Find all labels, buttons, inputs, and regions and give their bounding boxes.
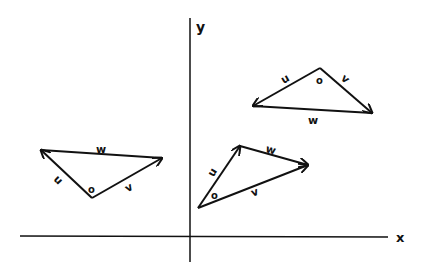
vector-diagram: x y u v w o u v w o u v w o (0, 0, 424, 277)
triangle-right: u v w o (253, 68, 372, 127)
label-w: w (308, 114, 318, 127)
vector-u (198, 146, 240, 208)
label-v: v (249, 185, 261, 200)
x-axis (20, 236, 388, 237)
x-axis-label: x (396, 230, 405, 245)
vector-u (41, 150, 92, 198)
label-u: u (205, 166, 220, 179)
y-axis-label: y (196, 19, 205, 35)
label-v: v (123, 180, 136, 195)
triangle-left: u v w o (41, 143, 162, 198)
diagram-canvas: x y u v w o u v w o u v w o (0, 0, 424, 277)
label-origin: o (211, 190, 218, 201)
vector-w (253, 106, 372, 113)
label-w: w (96, 143, 106, 156)
label-u: u (51, 173, 66, 188)
triangle-middle: u v w o (198, 142, 308, 208)
label-origin: o (316, 75, 323, 86)
label-origin: o (88, 184, 95, 195)
